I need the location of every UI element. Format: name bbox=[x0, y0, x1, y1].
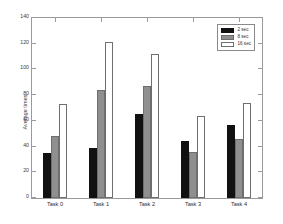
x-tick-mark-top bbox=[193, 18, 194, 22]
y-tick-mark: 140 bbox=[32, 17, 36, 18]
y-tick-mark-right bbox=[258, 171, 262, 172]
y-tick-mark: 80 bbox=[32, 94, 36, 95]
x-tick-label: Task 2 bbox=[139, 202, 155, 208]
y-tick-mark-right bbox=[258, 94, 262, 95]
y-tick-mark: 60 bbox=[32, 120, 36, 121]
legend-swatch bbox=[221, 28, 234, 33]
y-tick-mark: 120 bbox=[32, 43, 36, 44]
y-tick-mark: 20 bbox=[32, 171, 36, 172]
plot-area: 020406080100120140 Task 0Task 1Task 2Tas… bbox=[31, 17, 263, 199]
bar bbox=[151, 54, 159, 198]
bar bbox=[135, 114, 143, 198]
y-tick-label: 20 bbox=[23, 169, 29, 174]
bar bbox=[227, 125, 235, 198]
y-tick-mark-right bbox=[258, 17, 262, 18]
y-tick-label: 40 bbox=[23, 143, 29, 148]
legend-item: 16 sec bbox=[221, 41, 251, 48]
x-tick-label: Task 3 bbox=[185, 202, 201, 208]
x-tick-mark-top bbox=[239, 18, 240, 22]
y-tick-mark: 100 bbox=[32, 68, 36, 69]
x-tick-label: Task 0 bbox=[47, 202, 63, 208]
y-tick-mark: 40 bbox=[32, 146, 36, 147]
bar bbox=[189, 152, 197, 198]
y-tick-label: 0 bbox=[26, 194, 29, 199]
y-tick-mark: 0 bbox=[32, 197, 36, 198]
bar bbox=[97, 90, 105, 198]
y-tick-label: 100 bbox=[20, 66, 29, 71]
y-tick-label: 60 bbox=[23, 117, 29, 122]
legend-item: 8 sec bbox=[221, 34, 251, 41]
bar bbox=[235, 139, 243, 198]
legend-label: 8 sec bbox=[237, 35, 248, 40]
bar bbox=[143, 86, 151, 198]
y-tick-mark-right bbox=[258, 120, 262, 121]
legend-swatch bbox=[221, 42, 234, 47]
bar bbox=[43, 153, 51, 198]
legend-item: 2 sec bbox=[221, 27, 251, 34]
legend: 2 sec8 sec16 sec bbox=[217, 24, 255, 51]
x-tick-label: Task 4 bbox=[231, 202, 247, 208]
bar bbox=[89, 148, 97, 198]
bar bbox=[243, 103, 251, 198]
y-tick-label: 120 bbox=[20, 40, 29, 45]
bar bbox=[181, 141, 189, 198]
figure: Average times 020406080100120140 Task 0T… bbox=[0, 0, 283, 224]
x-tick-mark-top bbox=[147, 18, 148, 22]
y-tick-mark-right bbox=[258, 68, 262, 69]
y-axis-label: Average times bbox=[22, 94, 28, 129]
legend-label: 16 sec bbox=[237, 42, 251, 47]
y-tick-label: 140 bbox=[20, 14, 29, 19]
legend-label: 2 sec bbox=[237, 28, 248, 33]
x-tick-label: Task 1 bbox=[93, 202, 109, 208]
y-tick-mark-right bbox=[258, 43, 262, 44]
bar bbox=[59, 104, 67, 198]
bar bbox=[51, 136, 59, 198]
x-tick-mark-top bbox=[55, 18, 56, 22]
bar bbox=[197, 116, 205, 198]
x-tick-mark-top bbox=[101, 18, 102, 22]
bar bbox=[105, 42, 113, 198]
y-tick-mark-right bbox=[258, 197, 262, 198]
y-tick-mark-right bbox=[258, 146, 262, 147]
y-tick-label: 80 bbox=[23, 92, 29, 97]
legend-swatch bbox=[221, 35, 234, 40]
